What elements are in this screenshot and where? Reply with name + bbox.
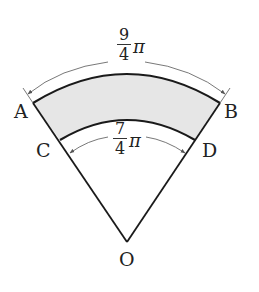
label-point-o: O (119, 250, 135, 269)
inner-arc-numerator: 7 (113, 120, 127, 137)
label-point-b: B (224, 102, 238, 121)
outer-arc-numerator: 9 (117, 26, 131, 43)
label-point-d: D (202, 141, 217, 160)
inner-dimension-arrow-right (146, 137, 185, 153)
label-point-a: A (14, 102, 28, 121)
outer-arc-length-label: 9 4 π (117, 26, 131, 63)
pi-symbol: π (129, 130, 141, 151)
inner-arc-length-label: 7 4 π (113, 120, 127, 157)
inner-arc-denominator: 4 (113, 140, 127, 157)
outer-arc-denominator: 4 (117, 46, 131, 63)
pi-symbol: π (133, 36, 145, 57)
label-point-c: C (36, 141, 51, 160)
inner-dimension-arrow-left (70, 137, 108, 153)
